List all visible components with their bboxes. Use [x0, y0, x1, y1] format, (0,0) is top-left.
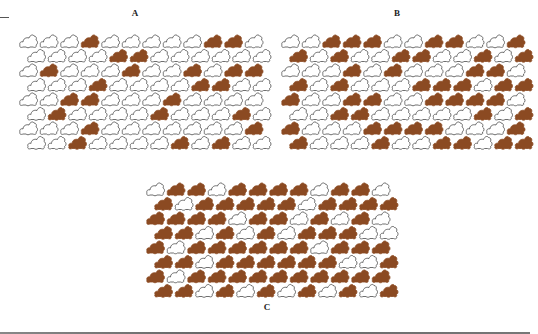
outline-animal-icon — [130, 78, 148, 91]
outline-animal-icon — [143, 93, 161, 106]
outline-animal-icon — [233, 78, 251, 91]
outline-animal-icon — [466, 35, 484, 48]
filled-animal-icon — [319, 197, 337, 210]
outline-animal-icon — [302, 64, 320, 77]
filled-animal-icon — [81, 122, 99, 135]
tessellation-panel-c — [145, 182, 405, 307]
outline-animal-icon — [61, 35, 79, 48]
filled-animal-icon — [208, 270, 226, 283]
outline-animal-icon — [28, 78, 46, 91]
filled-animal-icon — [229, 241, 247, 254]
filled-animal-icon — [192, 78, 210, 91]
outline-animal-icon — [81, 64, 99, 77]
filled-animal-icon — [212, 78, 230, 91]
filled-animal-icon — [208, 212, 226, 225]
outline-animal-icon — [175, 197, 193, 210]
filled-animal-icon — [298, 226, 316, 239]
panel-label-b: B — [387, 8, 407, 18]
outline-animal-icon — [245, 93, 263, 106]
outline-animal-icon — [212, 107, 230, 120]
outline-animal-icon — [323, 122, 341, 135]
filled-animal-icon — [343, 35, 361, 48]
filled-animal-icon — [384, 64, 402, 77]
outline-animal-icon — [48, 136, 66, 149]
outline-animal-icon — [171, 78, 189, 91]
outline-animal-icon — [110, 78, 128, 91]
filled-animal-icon — [339, 226, 357, 239]
filled-animal-icon — [257, 284, 275, 297]
outline-animal-icon — [290, 212, 308, 225]
filled-animal-icon — [392, 49, 410, 62]
filled-animal-icon — [507, 122, 525, 135]
filled-animal-icon — [311, 270, 329, 283]
outline-animal-icon — [167, 270, 185, 283]
tessellation-panel-b — [280, 34, 538, 159]
outline-animal-icon — [413, 136, 431, 149]
outline-animal-icon — [245, 35, 263, 48]
filled-animal-icon — [290, 49, 308, 62]
outline-animal-icon — [147, 183, 165, 196]
filled-animal-icon — [352, 270, 370, 283]
outline-animal-icon — [310, 78, 328, 91]
filled-animal-icon — [167, 212, 185, 225]
outline-animal-icon — [225, 93, 243, 106]
filled-animal-icon — [352, 241, 370, 254]
filled-animal-icon — [364, 35, 382, 48]
filled-animal-icon — [110, 49, 128, 62]
filled-animal-icon — [319, 226, 337, 239]
filled-animal-icon — [147, 241, 165, 254]
outline-animal-icon — [253, 49, 271, 62]
filled-animal-icon — [372, 270, 390, 283]
outline-animal-icon — [495, 49, 513, 62]
outline-animal-icon — [110, 136, 128, 149]
outline-animal-icon — [184, 93, 202, 106]
outline-animal-icon — [454, 107, 472, 120]
filled-animal-icon — [331, 78, 349, 91]
outline-animal-icon — [351, 136, 369, 149]
filled-animal-icon — [48, 107, 66, 120]
outline-animal-icon — [89, 136, 107, 149]
outline-animal-icon — [184, 122, 202, 135]
filled-animal-icon — [282, 93, 300, 106]
filled-animal-icon — [364, 122, 382, 135]
outline-animal-icon — [323, 64, 341, 77]
filled-animal-icon — [360, 197, 378, 210]
filled-animal-icon — [270, 183, 288, 196]
outline-animal-icon — [171, 49, 189, 62]
outline-animal-icon — [163, 64, 181, 77]
filled-animal-icon — [155, 197, 173, 210]
outline-animal-icon — [225, 122, 243, 135]
outline-animal-icon — [122, 35, 140, 48]
filled-animal-icon — [216, 197, 234, 210]
outline-animal-icon — [372, 107, 390, 120]
filled-animal-icon — [229, 183, 247, 196]
outline-animal-icon — [282, 35, 300, 48]
outline-animal-icon — [48, 49, 66, 62]
outline-animal-icon — [167, 241, 185, 254]
filled-animal-icon — [155, 226, 173, 239]
filled-animal-icon — [245, 64, 263, 77]
outline-animal-icon — [507, 93, 525, 106]
outline-animal-icon — [196, 226, 214, 239]
outline-animal-icon — [196, 255, 214, 268]
outline-animal-icon — [20, 35, 38, 48]
outline-animal-icon — [384, 35, 402, 48]
filled-animal-icon — [290, 78, 308, 91]
filled-animal-icon — [515, 49, 533, 62]
outline-animal-icon — [69, 78, 87, 91]
filled-animal-icon — [237, 197, 255, 210]
outline-animal-icon — [130, 136, 148, 149]
outline-animal-icon — [163, 122, 181, 135]
filled-animal-icon — [184, 64, 202, 77]
outline-animal-icon — [310, 49, 328, 62]
filled-animal-icon — [507, 35, 525, 48]
outline-animal-icon — [192, 49, 210, 62]
outline-animal-icon — [192, 136, 210, 149]
outline-animal-icon — [110, 107, 128, 120]
corner-rule — [0, 17, 9, 18]
filled-animal-icon — [298, 284, 316, 297]
outline-animal-icon — [204, 64, 222, 77]
outline-animal-icon — [302, 122, 320, 135]
outline-animal-icon — [343, 122, 361, 135]
filled-animal-icon — [384, 122, 402, 135]
